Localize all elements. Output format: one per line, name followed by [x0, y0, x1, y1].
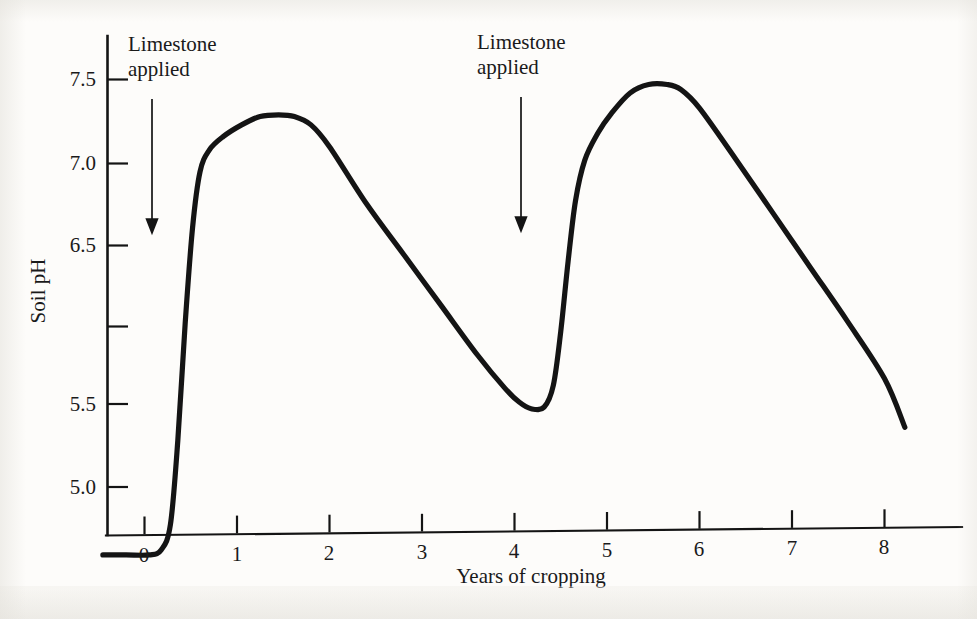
annotation-limestone-applied-1: Limestone applied: [128, 32, 217, 81]
x-tick-label-8: 8: [864, 537, 904, 558]
y-tick-label-5-0: 5.0: [46, 477, 96, 498]
x-tick-label-5: 5: [587, 540, 627, 561]
annotation-limestone-applied-2: Limestone applied: [477, 30, 566, 79]
x-tick-label-7: 7: [772, 538, 812, 559]
y-tick-label-6-5: 6.5: [46, 235, 96, 256]
annotation-2-line-2: applied: [477, 55, 566, 80]
figure-soil-ph-chart: 7.5 7.0 6.5 5.5 5.0 0 1 2 3 4 5 6 7 8 So…: [0, 0, 977, 619]
limestone-arrow-1-head: [147, 219, 158, 233]
x-tick-label-2: 2: [309, 543, 349, 564]
x-axis-title: Years of cropping: [456, 564, 606, 589]
annotation-1-line-1: Limestone: [128, 32, 217, 57]
y-tick-label-7-0: 7.0: [46, 153, 96, 174]
soil-ph-curve: [103, 84, 905, 556]
y-tick-label-5-5: 5.5: [46, 394, 96, 415]
x-axis-line: [106, 527, 962, 536]
y-axis-ticks: [107, 80, 128, 488]
y-tick-label-7-5: 7.5: [46, 69, 96, 90]
annotation-1-line-2: applied: [128, 57, 217, 82]
y-axis-title: Soil pH: [26, 259, 51, 324]
x-tick-label-6: 6: [679, 539, 719, 560]
x-tick-label-1: 1: [217, 544, 257, 565]
x-tick-label-0: 0: [124, 545, 164, 566]
annotation-2-line-1: Limestone: [477, 30, 566, 55]
x-axis-ticks: [145, 509, 885, 534]
limestone-arrow-2-head: [516, 217, 527, 231]
x-tick-label-3: 3: [402, 542, 442, 563]
x-tick-label-4: 4: [494, 541, 534, 562]
chart-plot-area: [0, 0, 977, 619]
